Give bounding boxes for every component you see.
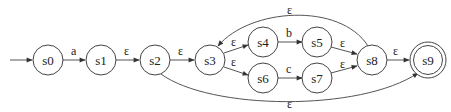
state-label-s7: s7 xyxy=(311,71,323,86)
state-label-s2: s2 xyxy=(149,53,161,68)
edge-label-s4-s5: b xyxy=(286,26,292,40)
edge-label-s2-s9: ε xyxy=(287,97,292,111)
edge-label-s3-s4: ε xyxy=(231,35,236,49)
state-label-s6: s6 xyxy=(257,71,269,86)
edge-label-s7-s8: ε xyxy=(340,57,345,71)
state-label-s0: s0 xyxy=(42,53,54,68)
state-label-s4: s4 xyxy=(257,35,269,50)
state-s6: s6 xyxy=(248,63,278,93)
state-label-s1: s1 xyxy=(95,53,107,68)
edge-label-s3-s6: ε xyxy=(231,55,236,69)
edge-label-s6-s7: c xyxy=(286,62,291,76)
diagram-svg: a ε ε ε ε b c ε ε ε ε ε s0 s1 xyxy=(0,0,451,112)
edge-label-s0-s1: a xyxy=(71,44,77,58)
state-label-s8: s8 xyxy=(366,53,378,68)
state-s2: s2 xyxy=(140,45,170,75)
state-label-s9: s9 xyxy=(422,53,434,68)
state-s8: s8 xyxy=(357,45,387,75)
nfa-diagram: a ε ε ε ε b c ε ε ε ε ε s0 s1 xyxy=(0,0,451,112)
state-label-s3: s3 xyxy=(204,53,216,68)
edge-label-s5-s8: ε xyxy=(340,36,345,50)
state-s1: s1 xyxy=(86,45,116,75)
edge-label-s1-s2: ε xyxy=(124,44,129,58)
state-s9-accept: s9 xyxy=(410,42,446,78)
state-s4: s4 xyxy=(248,27,278,57)
edge-s8-s3 xyxy=(218,15,368,46)
state-s0: s0 xyxy=(33,45,63,75)
edge-label-s2-s3: ε xyxy=(178,44,183,58)
edge-label-s8-s3: ε xyxy=(287,3,292,17)
state-s5: s5 xyxy=(302,27,332,57)
state-s7: s7 xyxy=(302,63,332,93)
edge-label-s8-s9: ε xyxy=(393,44,398,58)
nodes: s0 s1 s2 s3 s4 s5 s6 s7 xyxy=(33,27,446,93)
state-label-s5: s5 xyxy=(311,35,323,50)
state-s3: s3 xyxy=(195,45,225,75)
